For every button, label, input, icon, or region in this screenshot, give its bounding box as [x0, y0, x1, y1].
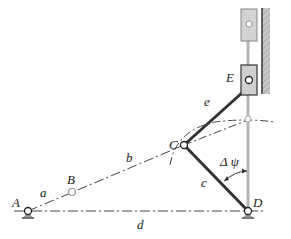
label-link-c: c: [201, 175, 207, 190]
link-e: [184, 92, 243, 145]
label-b-point: B: [67, 172, 75, 187]
joint-d: [245, 208, 252, 215]
label-e-point: E: [225, 70, 234, 85]
label-link-b: b: [126, 150, 133, 165]
crank-line-a-b: [28, 145, 184, 211]
arrowhead-icon: [242, 169, 247, 174]
label-link-a: a: [40, 185, 47, 200]
label-d-point: D: [252, 195, 263, 210]
slider-e: [241, 65, 257, 95]
joint-a: [25, 208, 32, 215]
joint-c: [181, 142, 188, 149]
label-angle-delta-psi: Δ ψ: [219, 154, 240, 169]
dashed-c-to-guide: [184, 120, 248, 145]
label-link-e: e: [204, 94, 210, 109]
label-c-point: C: [169, 137, 178, 152]
slider-upper-position: [241, 9, 257, 41]
joint-ghost: [245, 116, 251, 122]
mechanism-diagram: A B C D E a b c d e Δ ψ: [0, 0, 291, 239]
guide-wall: [262, 8, 270, 94]
label-a-point: A: [11, 195, 20, 210]
joint-b: [69, 189, 76, 196]
label-link-d: d: [137, 217, 144, 232]
arrowhead-icon: [224, 176, 229, 181]
